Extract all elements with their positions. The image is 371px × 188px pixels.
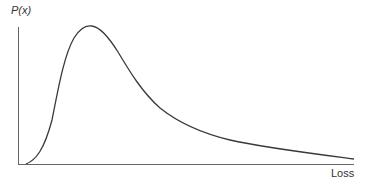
x-axis-label: Loss bbox=[331, 167, 354, 179]
chart-svg bbox=[0, 0, 371, 188]
density-curve bbox=[26, 26, 354, 164]
y-axis-label: P(x) bbox=[11, 4, 31, 16]
loss-distribution-chart: P(x) Loss bbox=[0, 0, 371, 188]
